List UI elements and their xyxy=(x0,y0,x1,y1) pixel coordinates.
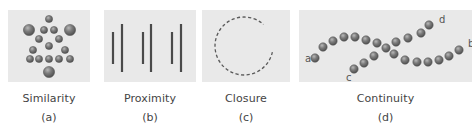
closure-dashed-circle-graphic xyxy=(202,10,290,82)
continuity-dot xyxy=(311,54,319,62)
similarity-circle xyxy=(61,46,68,53)
similarity-circle xyxy=(64,24,75,35)
similarity-circle xyxy=(26,55,33,62)
similarity-circles-graphic xyxy=(8,10,90,82)
continuity-dot xyxy=(435,56,443,64)
closure-sublabel: (c) xyxy=(202,111,290,125)
continuity-dots-graphic: abcd xyxy=(299,10,472,82)
similarity-panel xyxy=(8,10,90,82)
proximity-lines-graphic xyxy=(104,10,196,82)
continuity-dot xyxy=(329,37,337,45)
similarity-circle xyxy=(35,35,42,42)
endpoint-label-d: d xyxy=(439,14,445,25)
continuity-dot xyxy=(362,36,370,44)
similarity-circle xyxy=(23,24,34,35)
closure-caption: Closure xyxy=(202,92,290,106)
continuity-dot xyxy=(360,59,368,67)
continuity-dot xyxy=(392,38,400,46)
similarity-circle xyxy=(29,46,36,53)
similarity-circle xyxy=(40,26,47,33)
continuity-dot xyxy=(382,44,390,52)
continuity-dot xyxy=(340,33,348,41)
continuity-dot xyxy=(319,43,327,51)
continuity-dot xyxy=(401,56,409,64)
continuity-sublabel: (d) xyxy=(299,111,472,125)
continuity-dot xyxy=(424,58,432,66)
continuity-dot xyxy=(370,52,378,60)
continuity-dot xyxy=(425,21,433,29)
continuity-dot xyxy=(413,58,421,66)
closure-dashed-arc xyxy=(215,17,272,75)
proximity-caption: Proximity xyxy=(104,92,196,106)
continuity-dot xyxy=(417,29,425,37)
continuity-dot xyxy=(445,52,453,60)
closure-panel xyxy=(202,10,290,82)
similarity-circle xyxy=(45,55,52,62)
similarity-circle xyxy=(50,26,57,33)
similarity-caption: Similarity xyxy=(8,92,90,106)
similarity-circle xyxy=(43,66,54,77)
continuity-dot xyxy=(455,46,463,54)
continuity-panel: abcd xyxy=(299,10,472,82)
similarity-circle xyxy=(66,55,73,62)
continuity-dot xyxy=(390,50,398,58)
similarity-circle xyxy=(45,15,52,22)
continuity-dot xyxy=(373,39,381,47)
proximity-panel xyxy=(104,10,196,82)
continuity-caption: Continuity xyxy=(299,92,472,106)
similarity-circle xyxy=(55,55,62,62)
proximity-sublabel: (b) xyxy=(104,111,196,125)
endpoint-label-c: c xyxy=(346,72,352,82)
similarity-circle xyxy=(55,35,62,42)
similarity-circle xyxy=(45,42,52,49)
continuity-dot xyxy=(404,34,412,42)
endpoint-label-b: b xyxy=(468,38,472,49)
similarity-circle xyxy=(35,55,42,62)
continuity-dot xyxy=(351,33,359,41)
similarity-sublabel: (a) xyxy=(8,111,90,125)
endpoint-label-a: a xyxy=(305,53,311,64)
